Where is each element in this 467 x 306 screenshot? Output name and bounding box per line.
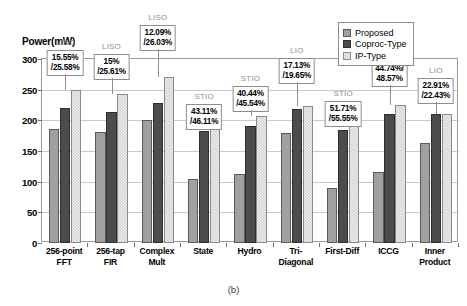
annotation-leader-line (436, 102, 437, 114)
annotation-leader-line (65, 74, 66, 90)
legend-swatch-ip-type (343, 52, 351, 60)
bar-proposed[interactable] (95, 132, 106, 243)
group-type-tag: LIO (429, 66, 443, 75)
bar-proposed[interactable] (327, 188, 338, 243)
annotation-leader-line (251, 110, 252, 116)
bar-ip[interactable] (210, 126, 221, 243)
group-type-tag: STIO (241, 74, 260, 83)
annotation-leader-line (112, 78, 113, 94)
x-category-label: First-Diff (325, 246, 359, 257)
annotation-line-2: /22.43% (422, 91, 451, 101)
x-category-line-1: 256-point (46, 246, 82, 256)
bar-coproc[interactable] (338, 130, 349, 243)
bar-ip[interactable] (349, 121, 360, 243)
bar-group (320, 59, 366, 243)
x-category-line-2: Mult (139, 257, 174, 268)
figure-caption: (b) (0, 284, 467, 295)
bar-ip[interactable] (395, 105, 406, 243)
annotation-callout: 22.91%/22.43% (418, 78, 455, 104)
legend-label-proposed: Proposed (355, 28, 394, 38)
annotation-callout: 43.11%/46.11% (186, 104, 222, 130)
x-category-line-1: Complex (139, 246, 174, 256)
annotation-line-1: 15% (104, 57, 120, 66)
x-category-line-1: First-Diff (325, 246, 359, 256)
bar-coproc[interactable] (60, 108, 71, 243)
annotation-line-1: 12.09% (145, 28, 172, 37)
bar-coproc[interactable] (384, 114, 395, 243)
annotation-line-1: 40.44% (237, 89, 264, 98)
bar-ip[interactable] (164, 77, 175, 243)
plot-area: 050100150200250300 15.55%/25.58%LISO15%/… (41, 58, 458, 242)
bar-proposed[interactable] (142, 120, 153, 243)
bar-proposed[interactable] (420, 143, 431, 243)
y-tick-label: 250 (4, 84, 37, 95)
x-category-line-1: 256-tap (96, 246, 125, 256)
y-tick-label: 300 (4, 54, 37, 65)
bar-coproc[interactable] (245, 126, 256, 243)
bar-proposed[interactable] (188, 179, 199, 243)
bar-ip[interactable] (442, 114, 453, 243)
annotation-line-2: /55.55% (329, 114, 358, 124)
annotation-callout: 51.71%/55.55% (325, 101, 362, 127)
bar-proposed[interactable] (49, 129, 60, 243)
legend-label-coproc-type: Coproc-Type (355, 39, 407, 49)
group-type-tag: LISO (56, 38, 75, 47)
figure-container: Power(mW) 050100150200250300 15.55%/25.5… (0, 0, 467, 306)
annotation-callout: 15.55%/25.58% (47, 50, 84, 76)
y-tick-label: 0 (4, 238, 37, 249)
group-type-tag: LISO (148, 13, 167, 22)
annotation-line-2: /19.65% (283, 71, 312, 81)
bar-coproc[interactable] (106, 112, 117, 243)
x-category-line-2: FIR (96, 257, 125, 268)
bar-coproc[interactable] (153, 103, 164, 243)
x-axis-labels: 256-pointFFT256-tapFIRComplexMultStateHy… (41, 246, 458, 280)
annotation-line-2: /25.58% (51, 63, 80, 73)
group-type-tag: STIO (194, 92, 213, 101)
legend-label-ip-type: IP-Type (355, 51, 386, 61)
annotation-line-2: 48.57% (375, 74, 404, 84)
x-category-line-1: Tri- (290, 246, 303, 256)
x-category-label: Hydro (238, 246, 262, 257)
y-tick-label: 50 (4, 207, 37, 218)
x-category-line-1: Inner (425, 246, 445, 256)
x-category-label: InnerProduct (419, 246, 450, 268)
annotation-leader-line (297, 82, 298, 106)
x-category-label: 256-tapFIR (96, 246, 125, 268)
annotation-callout: 17.13%/19.65% (279, 58, 316, 84)
x-category-line-2: FFT (46, 257, 82, 268)
legend-item-ip-type: IP-Type (343, 51, 407, 61)
x-category-line-1: ICCG (378, 246, 399, 256)
x-category-line-1: State (193, 246, 213, 256)
x-category-line-2: Diagonal (278, 257, 313, 268)
legend-item-coproc-type: Coproc-Type (343, 39, 407, 49)
x-category-line-1: Hydro (238, 246, 262, 256)
bar-ip[interactable] (303, 106, 314, 243)
annotation-line-2: /26.03% (144, 38, 173, 48)
bar-proposed[interactable] (234, 174, 245, 243)
annotation-line-1: 43.11% (191, 107, 217, 116)
legend: Proposed Coproc-Type IP-Type (338, 22, 414, 66)
y-tick-mark (38, 243, 42, 244)
bar-coproc[interactable] (292, 109, 303, 243)
y-tick-label: 200 (4, 115, 37, 126)
x-category-label: Tri-Diagonal (278, 246, 313, 268)
bar-ip[interactable] (71, 90, 82, 243)
x-category-label: 256-pointFFT (46, 246, 82, 268)
annotation-line-2: /25.61% (97, 67, 126, 77)
x-category-line-2: Product (419, 257, 450, 268)
annotation-line-1: 15.55% (52, 53, 79, 62)
bar-group (135, 59, 181, 243)
bar-proposed[interactable] (281, 133, 292, 243)
bar-coproc[interactable] (199, 131, 210, 243)
x-category-label: ICCG (378, 246, 399, 257)
bar-proposed[interactable] (373, 172, 384, 243)
annotation-line-2: /45.54% (236, 99, 265, 109)
y-tick-label: 100 (4, 176, 37, 187)
annotation-line-1: 22.91% (423, 81, 450, 90)
group-type-tag: LISO (102, 42, 121, 51)
bar-coproc[interactable] (431, 114, 442, 243)
x-category-label: ComplexMult (139, 246, 174, 268)
bar-ip[interactable] (256, 116, 267, 243)
bar-ip[interactable] (117, 94, 128, 243)
annotation-callout: 40.44%/45.54% (232, 86, 269, 112)
